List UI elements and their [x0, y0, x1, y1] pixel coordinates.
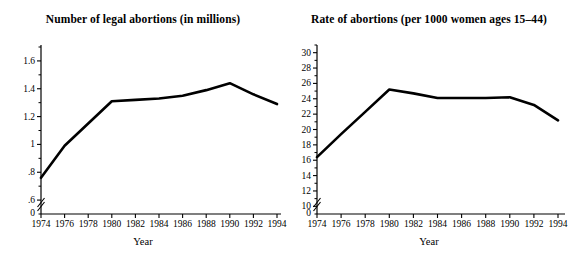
x-tick-label-left: 1988 [197, 219, 216, 229]
x-tick-label-right: 1974 [308, 219, 327, 229]
y-tick-label-right: 18 [286, 140, 311, 150]
y-tick-label-right: 12 [286, 186, 311, 196]
y-tick-label-right: 16 [286, 155, 311, 165]
x-tick-label-left: 1982 [126, 219, 145, 229]
y-tick-label-left: 1.4 [0, 84, 35, 94]
y-tick-label-left: 1.2 [0, 112, 35, 122]
y-tick-label-left: .8 [0, 167, 35, 177]
x-tick-label-right: 1980 [380, 219, 399, 229]
x-tick-label-left: 1986 [173, 219, 192, 229]
chart-panel-right: Rate of abortions (per 1000 women ages 1… [286, 0, 572, 259]
y-tick-label-right: 28 [286, 63, 311, 73]
x-ticks-right [317, 214, 558, 218]
y-tick-label-right: 20 [286, 125, 311, 135]
data-series-line-right [317, 90, 558, 158]
x-tick-label-right: 1992 [524, 219, 543, 229]
x-tick-label-right: 1986 [452, 219, 471, 229]
y-tick-label-right: 24 [286, 94, 311, 104]
x-tick-label-left: 1974 [32, 219, 51, 229]
x-tick-label-left: 1978 [79, 219, 98, 229]
x-tick-label-right: 1978 [356, 219, 375, 229]
x-tick-label-left: 1976 [55, 219, 74, 229]
y-tick-label-left: .6 [0, 195, 35, 205]
y-ticks-right [313, 45, 317, 214]
x-tick-labels-right: 1974197619781980198219841986198819901992… [286, 219, 572, 233]
y-tick-label-right: 26 [286, 78, 311, 88]
chart-panel-left: Number of legal abortions (in millions) … [0, 0, 286, 259]
x-tick-label-right: 1994 [549, 219, 568, 229]
x-tick-label-left: 1980 [102, 219, 121, 229]
x-tick-labels-left: 1974197619781980198219841986198819901992… [0, 219, 286, 233]
x-ticks-left [41, 214, 277, 218]
y-axis-zero-label-right: 0 [286, 208, 311, 218]
y-tick-label-right: 22 [286, 109, 311, 119]
x-tick-label-right: 1976 [332, 219, 351, 229]
x-tick-label-left: 1994 [268, 219, 287, 229]
x-tick-label-right: 1990 [500, 219, 519, 229]
x-tick-label-left: 1990 [220, 219, 239, 229]
x-tick-label-right: 1982 [404, 219, 423, 229]
x-axis-title-left: Year [0, 236, 286, 247]
y-tick-label-right: 14 [286, 171, 311, 181]
two-panel-line-chart-figure: Number of legal abortions (in millions) … [0, 0, 572, 259]
x-tick-label-right: 1988 [476, 219, 495, 229]
data-series-line-left [41, 83, 277, 178]
y-tick-label-left: 1 [0, 139, 35, 149]
x-tick-label-right: 1984 [428, 219, 447, 229]
y-tick-label-left: 1.6 [0, 56, 35, 66]
y-tick-label-right: 30 [286, 48, 311, 58]
y-axis-zero-label-left: 0 [0, 208, 35, 218]
x-tick-label-left: 1984 [150, 219, 169, 229]
x-axis-title-right: Year [286, 236, 572, 247]
x-tick-label-left: 1992 [244, 219, 263, 229]
